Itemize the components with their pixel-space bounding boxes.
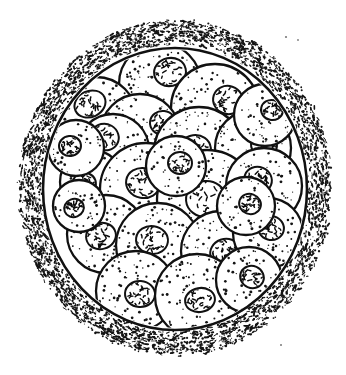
stray-speck [297, 39, 299, 41]
stray-speck [285, 36, 287, 38]
embryo-illustration [0, 0, 346, 375]
figure-root: Morula / early blastocyst embryo mammali… [0, 0, 346, 375]
cell-nucleus [124, 280, 156, 308]
blastomere-cell [217, 177, 275, 235]
stray-speck [280, 344, 282, 346]
blastomere-cell [146, 136, 206, 196]
blastomere-cell [53, 180, 105, 232]
